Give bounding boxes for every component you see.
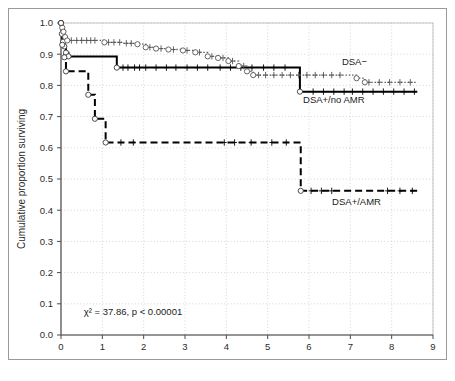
event-marker xyxy=(86,92,91,97)
event-marker xyxy=(102,40,107,45)
event-marker xyxy=(205,54,210,59)
event-marker xyxy=(166,47,171,52)
event-marker xyxy=(193,50,198,55)
event-marker xyxy=(61,29,66,34)
y-tick-label: 0.1 xyxy=(40,298,53,309)
event-marker xyxy=(60,42,65,47)
y-tick-label: 0.4 xyxy=(40,205,53,216)
y-tick-label: 0.2 xyxy=(40,267,53,278)
event-marker xyxy=(362,80,367,85)
event-marker xyxy=(103,140,108,145)
event-marker xyxy=(58,20,63,25)
event-marker xyxy=(65,38,70,43)
event-marker xyxy=(180,48,185,53)
y-axis-title: Cumulative proportion surviving xyxy=(16,109,27,249)
figure-container: 01234567890.00.10.20.30.40.50.60.70.80.9… xyxy=(0,0,455,381)
chart-annotations: χ² = 37.86, p < 0.00001 xyxy=(84,306,182,317)
y-tick-label: 1.0 xyxy=(40,17,53,28)
event-marker xyxy=(92,116,97,121)
y-tick-label: 0.8 xyxy=(40,80,53,91)
x-tick-label: 4 xyxy=(224,341,229,352)
y-tick-label: 0.9 xyxy=(40,49,53,60)
series-lines xyxy=(61,23,417,191)
y-tick-label: 0.5 xyxy=(40,173,53,184)
x-tick-label: 6 xyxy=(306,341,311,352)
event-marker xyxy=(62,55,67,60)
event-marker xyxy=(251,73,256,78)
series-markers xyxy=(58,20,416,194)
event-marker xyxy=(354,76,359,81)
series-label-2: DSA+/AMR xyxy=(332,196,381,207)
event-marker xyxy=(298,188,303,193)
event-marker xyxy=(215,55,220,60)
event-marker xyxy=(135,42,140,47)
x-tick-label: 7 xyxy=(348,341,353,352)
event-marker xyxy=(63,69,68,74)
event-marker xyxy=(226,58,231,63)
series-line-2 xyxy=(61,23,417,191)
x-tick-label: 3 xyxy=(182,341,187,352)
series-labels: DSA−DSA+/no AMRDSA+/AMR xyxy=(303,56,381,206)
logrank-statistic: χ² = 37.86, p < 0.00001 xyxy=(84,306,182,317)
x-tick-label: 9 xyxy=(430,341,435,352)
x-tick-label: 5 xyxy=(265,341,270,352)
x-tick-label: 0 xyxy=(58,341,63,352)
y-tick-label: 0.7 xyxy=(40,111,53,122)
y-tick-label: 0.6 xyxy=(40,142,53,153)
x-tick-label: 8 xyxy=(389,341,394,352)
series-label-1: DSA+/no AMR xyxy=(303,94,365,105)
x-tick-label: 2 xyxy=(141,341,146,352)
x-tick-label: 1 xyxy=(100,341,105,352)
survival-chart: 01234567890.00.10.20.30.40.50.60.70.80.9… xyxy=(9,9,446,359)
event-marker xyxy=(143,45,148,50)
y-tick-label: 0.3 xyxy=(40,236,53,247)
event-marker xyxy=(153,46,158,51)
y-tick-label: 0.0 xyxy=(40,329,53,340)
event-marker xyxy=(236,63,241,68)
series-label-0: DSA− xyxy=(342,56,368,67)
figure-frame: 01234567890.00.10.20.30.40.50.60.70.80.9… xyxy=(8,8,447,360)
event-marker xyxy=(297,89,302,94)
event-marker xyxy=(114,65,119,70)
series-line-1 xyxy=(61,23,417,82)
event-marker xyxy=(244,69,249,74)
